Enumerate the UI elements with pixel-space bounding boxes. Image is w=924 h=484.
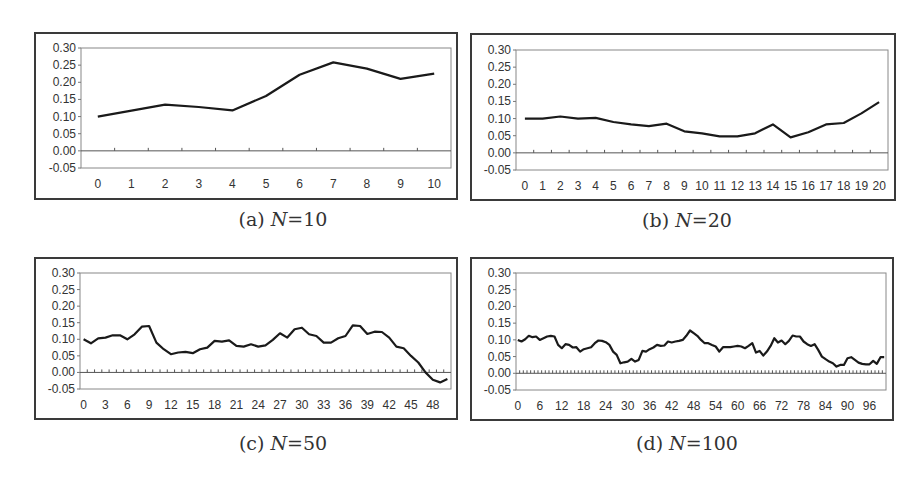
chart-a: 0.300.250.200.150.100.050.00-0.050123456… xyxy=(49,41,451,191)
x-tick-label: 90 xyxy=(841,399,855,413)
x-tick-label: 15 xyxy=(784,179,798,193)
x-tick-label: 9 xyxy=(681,179,688,193)
x-tick-label: 20 xyxy=(872,179,886,193)
x-tick-label: 6 xyxy=(628,179,635,193)
x-tick-label: 39 xyxy=(361,398,375,412)
x-tick-label: 48 xyxy=(426,398,440,412)
y-tick-label: 0.20 xyxy=(52,299,76,313)
y-tick-label: 0.25 xyxy=(52,283,76,297)
x-tick-label: 4 xyxy=(592,179,599,193)
x-tick-label: 12 xyxy=(731,179,745,193)
x-tick-label: 3 xyxy=(102,398,109,412)
plot-area xyxy=(80,273,451,389)
x-tick-label: 12 xyxy=(555,399,569,413)
x-tick-label: 8 xyxy=(663,179,670,193)
x-tick-label: 14 xyxy=(766,179,780,193)
y-tick-label: 0.15 xyxy=(53,92,77,106)
chart-c: 0.300.250.200.150.100.050.00-0.050369121… xyxy=(48,266,451,412)
x-tick-label: 3 xyxy=(575,179,582,193)
chart-d: 0.300.250.200.150.100.050.00-0.050612182… xyxy=(484,266,886,413)
y-tick-label: -0.05 xyxy=(484,383,512,397)
x-tick-label: 36 xyxy=(339,398,353,412)
x-tick-label: 18 xyxy=(577,399,591,413)
y-tick-label: 0.00 xyxy=(488,146,512,160)
plot-area xyxy=(81,48,451,168)
x-tick-label: 60 xyxy=(731,399,745,413)
x-tick-label: 24 xyxy=(599,399,613,413)
y-tick-label: 0.05 xyxy=(53,127,77,141)
y-tick-label: 0.15 xyxy=(52,316,76,330)
x-tick-label: 8 xyxy=(364,177,371,191)
x-tick-label: 1 xyxy=(128,177,135,191)
chart-b: 0.300.250.200.150.100.050.00-0.050123456… xyxy=(484,43,888,193)
y-tick-label: 0.10 xyxy=(488,112,512,126)
y-tick-label: 0.10 xyxy=(52,332,76,346)
data-series-line xyxy=(525,102,879,137)
x-tick-label: 27 xyxy=(273,398,287,412)
x-tick-label: 10 xyxy=(695,179,709,193)
y-tick-label: 0.30 xyxy=(488,266,512,280)
x-tick-label: 21 xyxy=(230,398,244,412)
y-tick-label: 0.25 xyxy=(488,60,512,74)
x-tick-label: 4 xyxy=(229,177,236,191)
x-tick-label: 3 xyxy=(195,177,202,191)
x-tick-label: 2 xyxy=(557,179,564,193)
y-tick-label: 0.00 xyxy=(53,144,77,158)
x-tick-label: 42 xyxy=(382,398,396,412)
x-tick-label: 6 xyxy=(124,398,131,412)
x-tick-label: 33 xyxy=(317,398,331,412)
x-tick-label: 9 xyxy=(397,177,404,191)
y-tick-label: 0.20 xyxy=(488,77,512,91)
x-tick-label: 54 xyxy=(709,399,723,413)
x-tick-label: 9 xyxy=(146,398,153,412)
y-tick-label: 0.30 xyxy=(53,41,77,55)
y-tick-label: 0.05 xyxy=(488,350,512,364)
y-tick-label: 0.25 xyxy=(488,283,512,297)
x-tick-label: 72 xyxy=(775,399,789,413)
x-tick-label: 2 xyxy=(162,177,169,191)
x-tick-label: 36 xyxy=(643,399,657,413)
x-tick-label: 5 xyxy=(610,179,617,193)
y-tick-label: -0.05 xyxy=(49,161,77,175)
x-tick-label: 24 xyxy=(252,398,266,412)
x-tick-label: 45 xyxy=(404,398,418,412)
y-tick-label: -0.05 xyxy=(484,163,512,177)
plot-area xyxy=(516,273,886,390)
x-tick-label: 11 xyxy=(713,179,726,193)
x-tick-label: 48 xyxy=(687,399,701,413)
y-tick-label: 0.15 xyxy=(488,316,512,330)
x-tick-label: 30 xyxy=(295,398,309,412)
y-tick-label: 0.10 xyxy=(53,110,77,124)
y-tick-label: 0.25 xyxy=(53,58,77,72)
y-tick-label: 0.10 xyxy=(488,333,512,347)
x-tick-label: 6 xyxy=(536,399,543,413)
x-tick-label: 0 xyxy=(514,399,521,413)
x-tick-label: 6 xyxy=(296,177,303,191)
y-tick-label: 0.15 xyxy=(488,94,512,108)
y-tick-label: 0.05 xyxy=(488,129,512,143)
y-tick-label: 0.00 xyxy=(52,365,76,379)
x-tick-label: 12 xyxy=(164,398,178,412)
y-tick-label: 0.00 xyxy=(488,366,512,380)
x-tick-label: 78 xyxy=(797,399,811,413)
data-series-line xyxy=(98,62,434,116)
x-tick-label: 42 xyxy=(665,399,679,413)
data-series-line xyxy=(84,325,448,382)
x-tick-label: 84 xyxy=(819,399,833,413)
y-tick-label: 0.20 xyxy=(488,299,512,313)
y-tick-label: 0.30 xyxy=(52,266,76,280)
x-tick-label: 17 xyxy=(819,179,833,193)
x-tick-label: 1 xyxy=(539,179,546,193)
x-tick-label: 66 xyxy=(753,399,767,413)
x-tick-label: 96 xyxy=(863,399,877,413)
x-tick-label: 7 xyxy=(330,177,337,191)
data-series-line xyxy=(518,331,884,367)
x-tick-label: 0 xyxy=(522,179,529,193)
y-tick-label: 0.20 xyxy=(53,75,77,89)
x-tick-label: 16 xyxy=(802,179,816,193)
plot-area xyxy=(516,50,888,170)
x-tick-label: 19 xyxy=(855,179,869,193)
x-tick-label: 30 xyxy=(621,399,635,413)
y-tick-label: 0.30 xyxy=(488,43,512,57)
x-tick-label: 5 xyxy=(263,177,270,191)
